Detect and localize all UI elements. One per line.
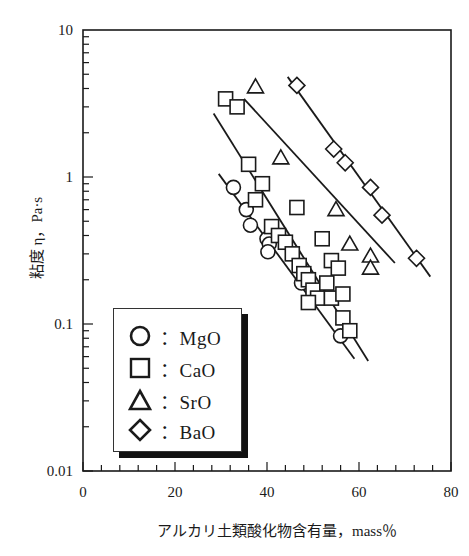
triangle-marker-icon xyxy=(342,236,358,250)
square-marker-icon xyxy=(290,201,304,215)
legend-label: ：BaO xyxy=(160,417,216,444)
y-tick-label: 10 xyxy=(58,22,73,38)
triangle-marker-icon xyxy=(273,150,289,164)
circle-marker-icon xyxy=(226,180,240,194)
legend-item-cao: ：CaO xyxy=(128,355,216,381)
circle-marker-icon xyxy=(128,324,152,348)
x-tick-label: 0 xyxy=(79,484,87,500)
y-axis-label: 粘度 η，Pa·s xyxy=(25,197,46,279)
triangle-marker-icon xyxy=(128,388,152,412)
square-marker-icon xyxy=(320,276,334,290)
data-markers xyxy=(219,77,425,343)
square-marker-icon xyxy=(331,261,345,275)
square-marker-icon xyxy=(255,177,269,191)
legend-label: ：MgO xyxy=(160,323,221,350)
y-tick-label: 1 xyxy=(66,169,74,185)
square-marker-icon xyxy=(336,287,350,301)
circle-marker-icon xyxy=(261,245,275,259)
y-tick-label: 0.1 xyxy=(54,316,73,332)
legend: ：MgO ：CaO ：SrO ：BaO xyxy=(113,308,242,452)
x-tick-label: 20 xyxy=(168,484,183,500)
x-tick-label: 40 xyxy=(260,484,275,500)
square-marker-icon xyxy=(242,157,256,171)
circle-marker-icon xyxy=(243,218,257,232)
triangle-marker-icon xyxy=(248,79,264,93)
diamond-marker-icon xyxy=(289,77,305,93)
legend-item-sro: ：SrO xyxy=(128,387,212,413)
x-tick-label: 80 xyxy=(444,484,459,500)
square-marker-icon xyxy=(336,311,350,325)
fit-line-bao xyxy=(288,77,431,277)
chart-canvas: 0204060800.010.1110 xyxy=(0,0,469,556)
diamond-marker-icon xyxy=(374,207,390,223)
square-marker-icon xyxy=(249,193,263,207)
diamond-marker-icon xyxy=(363,179,379,195)
square-marker-icon xyxy=(230,100,244,114)
diamond-marker-icon xyxy=(337,155,353,171)
legend-item-mgo: ：MgO xyxy=(128,323,221,349)
legend-label: ：CaO xyxy=(160,355,216,382)
x-axis-label: アルカリ土類酸化物含有量，mass％ xyxy=(0,519,469,540)
diamond-marker-icon xyxy=(326,141,342,157)
y-tick-label: 0.01 xyxy=(47,463,73,479)
square-marker-icon xyxy=(301,296,315,310)
x-tick-label: 60 xyxy=(352,484,367,500)
diamond-marker-icon xyxy=(128,418,152,442)
legend-item-bao: ：BaO xyxy=(128,417,216,443)
square-marker-icon xyxy=(343,324,357,338)
legend-label: ：SrO xyxy=(160,387,212,414)
square-marker-icon xyxy=(315,232,329,246)
square-marker-icon xyxy=(128,356,152,380)
